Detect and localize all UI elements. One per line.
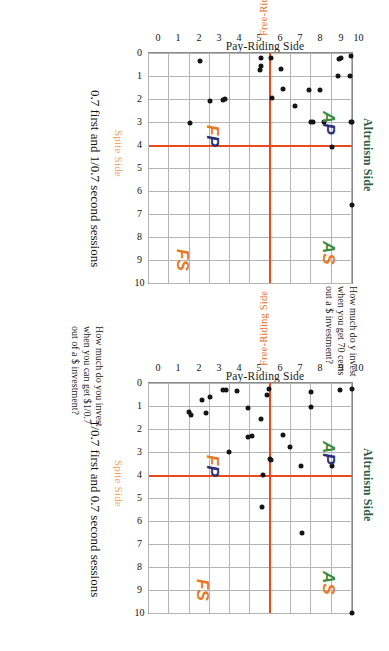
- gridline-vertical: [149, 53, 352, 54]
- quadrant-label-fs-bottom: FS: [192, 579, 212, 601]
- y-axis-tick-label: 8: [305, 32, 323, 43]
- quadrant-label-ap-top: AP: [318, 111, 338, 135]
- quadrant-fp-first-b: F: [203, 455, 222, 465]
- data-point: [267, 456, 272, 461]
- data-point: [293, 103, 298, 108]
- x-axis-tick-label: 4: [131, 139, 149, 150]
- data-point: [186, 409, 191, 414]
- axis-title-spite-bottom: Spite Side: [113, 460, 125, 507]
- quadrant-as-first: A: [319, 241, 338, 253]
- quadrant-fp-second: P: [203, 135, 222, 146]
- gridline-horizontal: [168, 383, 169, 613]
- quadrant-fp-second-b: P: [203, 465, 222, 476]
- y-axis-tick-label: 7: [285, 32, 303, 43]
- gridline-vertical: [149, 99, 352, 100]
- data-point: [199, 398, 204, 403]
- x-axis-tick-label: 1: [131, 70, 149, 81]
- quadrant-fs-second: S: [173, 259, 192, 270]
- gridline-horizontal: [351, 383, 352, 613]
- data-point: [350, 202, 355, 207]
- x-axis-tick-label: 2: [131, 93, 149, 104]
- y-axis-tick-label: 2: [183, 32, 201, 43]
- quadrant-label-fp-bottom: FP: [202, 455, 222, 477]
- gridline-horizontal: [168, 53, 169, 283]
- gridline-vertical: [149, 214, 352, 215]
- quadrant-fs-second-b: S: [193, 589, 212, 600]
- x-axis-tick-label: 0: [131, 377, 149, 388]
- data-point: [350, 386, 355, 391]
- axis-title-free-riding-top: Free-Riding Side: [258, 0, 269, 36]
- data-point: [203, 410, 208, 415]
- data-point: [187, 121, 192, 126]
- gridline-vertical: [149, 283, 352, 284]
- reference-line-vertical: [149, 475, 352, 477]
- x-axis-tick-label: 2: [131, 423, 149, 434]
- data-point: [235, 389, 240, 394]
- gridline-vertical: [149, 567, 352, 568]
- x-axis-tick-label: 3: [131, 446, 149, 457]
- axis-title-altruism-top: Altruism Side: [360, 118, 375, 192]
- y-axis-tick-label: 2: [183, 362, 201, 373]
- panel-bottom: Altruism Side Pay-Riding Side AP AS FP F…: [49, 330, 389, 630]
- axis-title-free-riding-bottom: Free-Riding Side: [258, 326, 269, 366]
- quadrant-ap-second: P: [319, 123, 338, 134]
- data-point: [349, 120, 354, 125]
- gridline-horizontal: [310, 383, 311, 613]
- axis-title-spite-top: Spite Side: [113, 130, 125, 177]
- x-axis-tick-label: 4: [131, 469, 149, 480]
- y-axis-tick-label: 4: [224, 362, 242, 373]
- data-point: [221, 98, 226, 103]
- y-axis-tick-label: 8: [305, 362, 323, 373]
- y-axis-tick-label: 3: [203, 32, 221, 43]
- quadrant-label-as-top: AS: [318, 241, 338, 265]
- figure-page: Altruism Side Pay-Riding Side AP AS FP F: [0, 0, 389, 651]
- data-point: [336, 56, 341, 61]
- plot-area-top: AP AS FP FS: [148, 52, 353, 284]
- reference-line-horizontal: [269, 383, 271, 613]
- quadrant-ap-first-b: A: [319, 441, 338, 453]
- gridline-vertical: [149, 544, 352, 545]
- data-point: [258, 55, 263, 60]
- data-point: [260, 473, 265, 478]
- quadrant-fs-first: F: [173, 249, 192, 259]
- data-point: [246, 406, 251, 411]
- gridline-horizontal: [290, 53, 291, 283]
- quadrant-label-fs-top: FS: [172, 249, 192, 271]
- quadrant-label-as-bottom: AS: [318, 571, 338, 595]
- quadrant-fp-first: F: [203, 125, 222, 135]
- y-axis-tick-label: 0: [143, 32, 161, 43]
- panel-top-subcaption: 0.7 first and 1/0.7 second sessions: [87, 90, 103, 267]
- data-point: [269, 95, 274, 100]
- x-axis-tick-label: 8: [131, 231, 149, 242]
- data-point: [309, 120, 314, 125]
- x-axis-tick-label: 0: [131, 47, 149, 58]
- x-axis-tick-label: 7: [131, 208, 149, 219]
- y-axis-tick-label: 9: [325, 362, 343, 373]
- quadrant-ap-second-b: P: [319, 453, 338, 464]
- data-point: [266, 386, 271, 391]
- data-point: [257, 68, 262, 73]
- x-axis-tick-label: 5: [131, 162, 149, 173]
- x-axis-tick-label: 6: [131, 185, 149, 196]
- quadrant-fs-first-b: F: [193, 579, 212, 589]
- quadrant-as-first-b: A: [319, 571, 338, 583]
- axis-title-altruism-bottom: Altruism Side: [360, 448, 375, 522]
- y-axis-tick-label: 10: [346, 362, 364, 373]
- x-axis-tick-label: 10: [131, 277, 149, 288]
- panel-bottom-subcaption: 1/0.7 first and 0.7 second sessions: [87, 420, 103, 597]
- panel-top-inner: Altruism Side Pay-Riding Side AP AS FP F: [89, 0, 389, 340]
- data-point: [197, 59, 202, 64]
- data-point: [227, 450, 232, 455]
- gridline-vertical: [149, 237, 352, 238]
- plot-area-bottom: AP AS FP FS: [148, 382, 353, 614]
- data-point: [264, 392, 269, 397]
- data-point: [347, 74, 352, 79]
- gridline-vertical: [149, 191, 352, 192]
- data-point: [221, 387, 226, 392]
- x-axis-tick-label: 9: [131, 584, 149, 595]
- data-point: [350, 611, 355, 616]
- x-axis-tick-label: 6: [131, 515, 149, 526]
- panel-bottom-inner: Altruism Side Pay-Riding Side AP AS FP F…: [89, 330, 389, 651]
- data-point: [258, 416, 263, 421]
- y-axis-tick-label: 3: [203, 362, 221, 373]
